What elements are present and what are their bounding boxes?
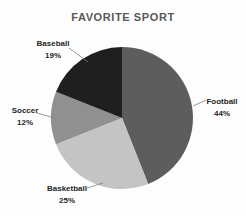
data-label-soccer-name: Soccer (12, 105, 39, 117)
data-label-football: Football 44% (206, 96, 237, 120)
leader-line-baseball (69, 48, 88, 62)
data-label-baseball-name: Baseball (37, 38, 70, 50)
data-label-baseball: Baseball 19% (37, 38, 70, 62)
leader-line-football (193, 100, 206, 106)
data-label-soccer-pct: 12% (12, 117, 39, 129)
pie-slices (51, 47, 193, 189)
data-label-basketball: Basketball 25% (47, 183, 87, 207)
data-label-basketball-name: Basketball (47, 183, 87, 195)
leader-line-soccer (37, 113, 51, 117)
data-label-football-name: Football (206, 96, 237, 108)
data-label-baseball-pct: 19% (37, 50, 70, 62)
pie-chart: FAVORITE SPORT Football 44% Baseball 19%… (0, 0, 246, 216)
data-label-football-pct: 44% (206, 108, 237, 120)
data-label-soccer: Soccer 12% (12, 105, 39, 129)
data-label-basketball-pct: 25% (47, 195, 87, 207)
